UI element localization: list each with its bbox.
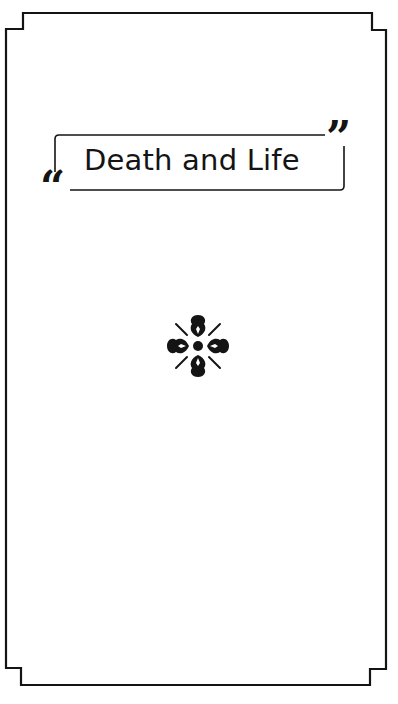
- flower-ornament-icon: [166, 314, 230, 378]
- open-quote-mark: “: [40, 166, 65, 210]
- close-quote-mark: ”: [326, 116, 351, 160]
- page-title: Death and Life: [84, 143, 300, 177]
